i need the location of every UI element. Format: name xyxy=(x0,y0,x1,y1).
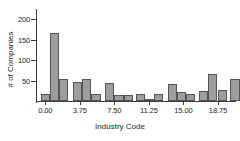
histogram-bar xyxy=(41,94,50,101)
y-tick-mark xyxy=(31,81,36,82)
histogram-bar xyxy=(114,95,123,101)
plot-area xyxy=(37,13,235,101)
x-tick-label: 15.00 xyxy=(174,106,192,115)
x-tick-label: 7.50 xyxy=(107,106,121,115)
x-tick-mark xyxy=(218,101,219,105)
histogram-bar xyxy=(154,94,163,101)
y-tick-mark xyxy=(31,60,36,61)
histogram-bar xyxy=(218,90,227,101)
histogram-bar xyxy=(145,99,154,101)
histogram-bar xyxy=(73,82,82,101)
histogram-bar xyxy=(50,33,59,101)
histogram-bar xyxy=(59,79,68,101)
x-tick-mark xyxy=(45,101,46,105)
histogram-bar xyxy=(199,91,208,101)
histogram-bar xyxy=(208,74,217,101)
x-axis-line xyxy=(36,101,236,102)
histogram-bar xyxy=(136,94,145,101)
x-tick-mark xyxy=(114,101,115,105)
x-tick-label: 0.00 xyxy=(38,106,52,115)
histogram-bar xyxy=(168,84,177,101)
histogram-bar xyxy=(230,79,239,101)
x-tick-label: 3.75 xyxy=(73,106,87,115)
y-axis-title: # of Companies xyxy=(6,22,15,98)
histogram-chart: 50100150200 0.003.757.5011.2515.0018.75 … xyxy=(0,0,240,141)
x-axis-title: Industry Code xyxy=(0,122,240,131)
histogram-bar xyxy=(177,92,186,101)
y-tick-mark xyxy=(31,40,36,41)
x-tick-mark xyxy=(183,101,184,105)
x-tick-mark xyxy=(80,101,81,105)
x-tick-label: 11.25 xyxy=(140,106,158,115)
y-tick-label: 100 xyxy=(18,56,30,65)
histogram-bar xyxy=(124,95,133,101)
y-tick-mark xyxy=(31,19,36,20)
histogram-bar xyxy=(186,94,195,101)
histogram-bar xyxy=(105,83,114,101)
histogram-bar xyxy=(91,94,100,101)
y-tick-label: 200 xyxy=(18,15,30,24)
x-tick-label: 18.75 xyxy=(209,106,227,115)
histogram-bar xyxy=(82,79,91,101)
x-tick-mark xyxy=(149,101,150,105)
y-tick-label: 50 xyxy=(22,76,30,85)
y-tick-label: 150 xyxy=(18,35,30,44)
